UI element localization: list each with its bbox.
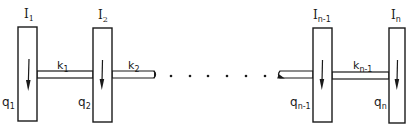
stiffness-label-k2: k2 bbox=[128, 60, 139, 74]
label-sub: 1 bbox=[10, 102, 15, 111]
inertia-label-n: In bbox=[391, 9, 401, 24]
disk-n bbox=[389, 28, 405, 123]
coordinate-label-q1: q1 bbox=[2, 96, 15, 111]
coordinate-label-q2: q2 bbox=[78, 96, 91, 111]
label-base: q bbox=[374, 95, 382, 109]
label-sub: 1 bbox=[29, 14, 34, 23]
label-base: q bbox=[290, 95, 298, 109]
disk-2 bbox=[93, 28, 112, 122]
stiffness-label-k1: k1 bbox=[57, 60, 68, 74]
inertia-label-n-1: In-1 bbox=[313, 9, 331, 24]
coordinate-label-qn-1: qn-1 bbox=[290, 96, 311, 111]
label-base: q bbox=[78, 95, 86, 109]
inertia-label-1: I1 bbox=[24, 8, 34, 23]
label-sub: 1 bbox=[63, 65, 68, 74]
inertia-label-2: I2 bbox=[98, 9, 108, 24]
label-base: q bbox=[2, 95, 10, 109]
label-sub: n bbox=[396, 15, 401, 24]
label-sub: n-1 bbox=[359, 65, 372, 74]
label-sub: 2 bbox=[134, 65, 139, 74]
label-sub: n-1 bbox=[298, 102, 311, 111]
coordinate-label-qn: qn bbox=[374, 96, 387, 111]
shaft-stub-left-of-n-1 bbox=[278, 71, 313, 78]
stiffness-label-kn-1: kn-1 bbox=[353, 60, 372, 74]
ellipsis-dots bbox=[170, 75, 267, 78]
label-sub: 2 bbox=[86, 102, 91, 111]
label-sub: n-1 bbox=[318, 15, 331, 24]
disk-n-1 bbox=[313, 28, 332, 122]
disk-1 bbox=[18, 27, 37, 121]
label-sub: 2 bbox=[103, 15, 108, 24]
label-sub: n bbox=[382, 102, 387, 111]
